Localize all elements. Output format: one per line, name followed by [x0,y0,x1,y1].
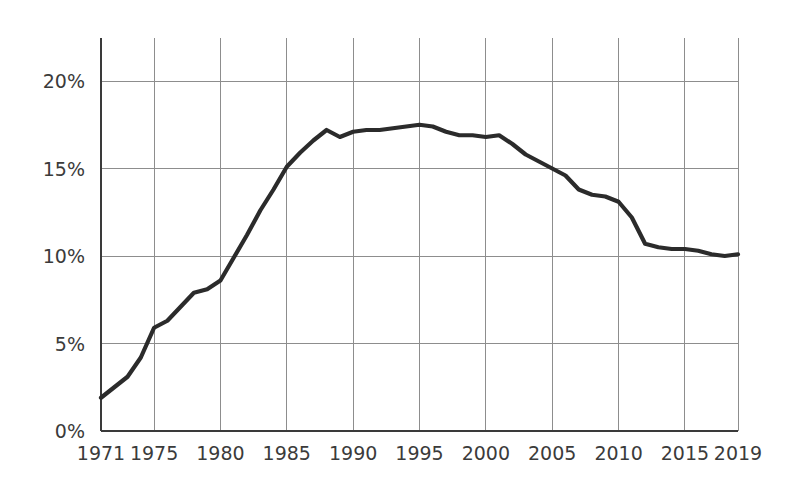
x-tick-label: 1980 [196,442,244,464]
x-tick-label: 2000 [462,442,510,464]
x-tick-labels: 1971197519801985199019952000200520102015… [77,442,762,464]
x-tick-label: 2005 [528,442,576,464]
x-tick-label: 1985 [263,442,311,464]
y-tick-label: 0% [55,420,85,442]
y-tick-label: 20% [43,70,85,92]
y-tick-label: 10% [43,245,85,267]
x-tick-label: 1990 [329,442,377,464]
vertical-gridlines [154,38,738,431]
x-tick-label: 1995 [395,442,443,464]
y-tick-labels: 0%5%10%15%20% [43,70,85,442]
line-chart: 0%5%10%15%20% 19711975198019851990199520… [0,0,794,502]
x-tick-label: 1975 [130,442,178,464]
x-tick-label: 2015 [661,442,709,464]
x-tick-label: 2010 [594,442,642,464]
y-tick-label: 15% [43,158,85,180]
chart-container: 0%5%10%15%20% 19711975198019851990199520… [0,0,794,502]
x-tick-label: 2019 [714,442,762,464]
x-tick-label: 1971 [77,442,125,464]
y-tick-label: 5% [55,333,85,355]
